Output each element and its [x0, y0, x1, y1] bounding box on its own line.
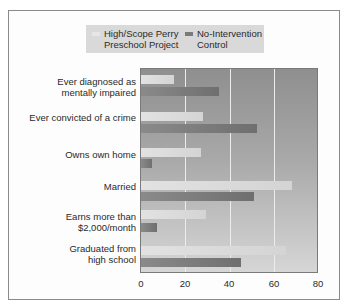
x-tick-0: 0: [138, 278, 143, 289]
category-label-married: Married: [104, 181, 136, 192]
category-label-graduated: Graduated from high school: [69, 243, 136, 265]
bar-perry: [141, 210, 206, 219]
category-label-owns-home: Owns own home: [65, 149, 136, 160]
bar-control: [141, 124, 257, 133]
gridline-20: [185, 69, 186, 272]
legend-label-line1: No-Intervention: [197, 28, 262, 39]
bar-perry: [141, 148, 201, 157]
legend-label-line2: Control: [197, 39, 228, 50]
x-tick-60: 60: [269, 278, 280, 289]
legend-swatch-dark-icon: [185, 32, 193, 36]
bar-control: [141, 87, 219, 96]
bar-perry: [141, 246, 286, 255]
category-label-convicted: Ever convicted of a crime: [29, 112, 136, 123]
gridline-40: [230, 69, 231, 272]
legend-label-line1: High/Scope Perry: [104, 28, 178, 39]
bar-perry: [141, 75, 174, 84]
legend-item-perry: High/Scope Perry Preschool Project: [92, 28, 178, 50]
x-tick-40: 40: [224, 278, 235, 289]
bar-control: [141, 159, 152, 168]
bar-control: [141, 258, 241, 267]
bar-perry: [141, 112, 203, 121]
x-tick-20: 20: [180, 278, 191, 289]
chart-legend: High/Scope Perry Preschool Project No-In…: [86, 25, 264, 53]
category-label-mentally-impaired: Ever diagnosed as mentally impaired: [57, 76, 136, 98]
legend-item-control: No-Intervention Control: [185, 28, 262, 50]
category-label-earns: Earns more than $2,000/month: [66, 211, 136, 233]
bar-control: [141, 223, 157, 232]
bar-control: [141, 192, 254, 201]
bar-perry: [141, 181, 292, 190]
legend-label-line2: Preschool Project: [104, 39, 178, 50]
gridline-60: [274, 69, 275, 272]
x-tick-80: 80: [313, 278, 324, 289]
legend-swatch-light-icon: [92, 32, 100, 36]
plot-area: [140, 68, 318, 273]
